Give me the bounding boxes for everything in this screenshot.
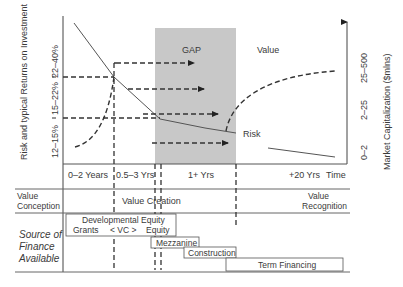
left-tick-12-15: 12–15% [50, 125, 60, 158]
term-financing-label: Term Financing [258, 260, 316, 270]
stage-recognition-1: Value [308, 191, 329, 201]
x-axis-label: Time [326, 170, 346, 180]
returns-curve-left [75, 77, 114, 147]
grants-label: Grants [73, 225, 99, 235]
equity-label: Equity [146, 225, 170, 235]
finance-row-label-3: Available [18, 253, 60, 264]
x-tick-0.5-3-yrs: 0.5–3 Yrs [116, 170, 155, 180]
x-tick-20-yrs: +20 Yrs [289, 170, 321, 180]
x-tick-1-yrs: 1+ Yrs [188, 170, 215, 180]
mezzanine-label: Mezzanine [156, 238, 197, 248]
x-tick-0-2-years: 0–2 Years [68, 170, 109, 180]
value-curve [226, 71, 335, 131]
value-label: Value [257, 45, 279, 55]
right-tick-2-25: 2–25 [359, 100, 369, 120]
stage-creation: Value Creation [122, 196, 181, 206]
left-axis-label: Risk and typical Returns on Investment [19, 3, 29, 160]
developmental-equity-label: Developmental Equity [82, 215, 165, 225]
risk-curve-tail [268, 148, 335, 157]
finance-row-label-2: Finance [19, 241, 55, 252]
vc-label: < VC > [110, 225, 136, 235]
right-axis-label: Market Capitalization ($mlns) [382, 53, 392, 170]
stage-recognition-2: Recognition [302, 201, 347, 211]
gap-label: GAP [182, 45, 201, 55]
left-tick-15-22: 15–22% [50, 82, 60, 115]
startup-financing-gap-diagram: GAP Risk Value Risk and typical Returns … [0, 0, 403, 287]
construction-label: Construction [188, 248, 236, 258]
risk-label: Risk [243, 129, 261, 139]
left-tick-22-40: 22–40% [50, 45, 60, 78]
right-tick-0-2: 0–2 [359, 145, 369, 160]
stage-conception-2: Conception [17, 201, 60, 211]
stage-conception-1: Value [17, 191, 38, 201]
right-tick-25-500: 25–500 [359, 53, 369, 83]
finance-row-label-1: Source of [19, 229, 63, 240]
